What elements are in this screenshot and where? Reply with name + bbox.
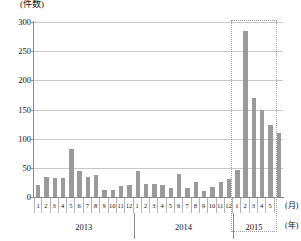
month-tick-label: 10 [109, 198, 117, 213]
bar [185, 188, 189, 197]
bar [44, 177, 48, 197]
month-tick-label: 4 [59, 198, 67, 213]
month-tick-label: 9 [200, 198, 208, 213]
month-tick-label: 5 [266, 198, 274, 213]
bar [210, 187, 214, 197]
month-tick-label: 6 [76, 198, 84, 213]
year-label: 2014 [134, 222, 234, 232]
bar [160, 185, 164, 197]
month-tick-label: 5 [67, 198, 75, 213]
year-label: 2013 [34, 222, 134, 232]
month-tick-label: 8 [192, 198, 200, 213]
bar [136, 171, 140, 197]
month-tick-label: 11 [117, 198, 125, 213]
bar [77, 171, 81, 197]
month-tick-label: 6 [175, 198, 183, 213]
bar [119, 186, 123, 197]
month-tick-label: 7 [84, 198, 92, 213]
year-unit-caption: (年) [285, 219, 298, 230]
month-tick-label: 3 [51, 198, 59, 213]
month-tick-label: 9 [100, 198, 108, 213]
bar [144, 184, 148, 197]
month-tick-label: 2 [42, 198, 50, 213]
bar-series [34, 22, 283, 197]
bar [252, 98, 256, 197]
month-tick-label: 8 [92, 198, 100, 213]
month-tick-label: 3 [150, 198, 158, 213]
bar [127, 185, 131, 197]
bar [235, 170, 239, 197]
bar-chart: (件数) 050100150200250300 1234567891011121… [0, 0, 301, 241]
bar [243, 31, 247, 197]
bar [111, 190, 115, 197]
bar [177, 174, 181, 197]
bar [102, 190, 106, 197]
y-axis-tick-labels: 050100150200250300 [0, 0, 31, 241]
bar [53, 178, 57, 197]
bar [61, 178, 65, 197]
bar [202, 191, 206, 197]
x-axis-year-labels: 201320142015 [34, 213, 283, 239]
bar [94, 175, 98, 197]
bar [227, 179, 231, 197]
bar [268, 125, 272, 197]
bar [194, 182, 198, 197]
bar [152, 184, 156, 197]
bar [277, 133, 281, 197]
month-tick-label: 1 [134, 198, 142, 213]
month-tick-label: 7 [183, 198, 191, 213]
bar [36, 185, 40, 197]
month-tick-label: 2 [242, 198, 250, 213]
month-tick-label: 5 [167, 198, 175, 213]
month-tick-label: 1 [233, 198, 241, 213]
month-tick-label: 10 [208, 198, 216, 213]
year-label: 2015 [233, 222, 275, 232]
month-tick-label: 3 [250, 198, 258, 213]
month-tick-label: 1 [34, 198, 42, 213]
month-tick-label: 11 [217, 198, 225, 213]
month-tick-label: 12 [125, 198, 133, 213]
month-unit-caption: (月) [285, 199, 298, 210]
bar [219, 182, 223, 197]
month-tick-label: 12 [225, 198, 233, 213]
x-axis-month-labels: 12345678910111212345678910111212345 [34, 198, 283, 213]
month-tick-label: 4 [258, 198, 266, 213]
month-tick-label: 2 [142, 198, 150, 213]
bar [69, 149, 73, 197]
bar [169, 188, 173, 197]
bar [86, 177, 90, 197]
bar [260, 110, 264, 198]
month-tick-label: 4 [159, 198, 167, 213]
